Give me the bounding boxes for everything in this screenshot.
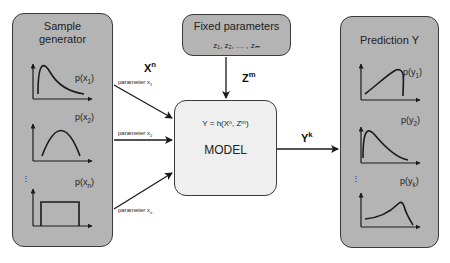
label-py2: p(y2) [401, 115, 420, 127]
plot-pyk [361, 193, 420, 227]
label-zm: Zm [242, 70, 256, 84]
label-px1: p(x1) [75, 73, 94, 85]
label-yk: Yk [301, 130, 313, 144]
label-pyk: p(yk) [400, 176, 419, 188]
label-param-x2: parameter x2 [118, 130, 152, 138]
arrow-param-x1 [114, 85, 172, 118]
plot-pxn [33, 189, 92, 226]
label-param-x1: parameter x1 [118, 79, 152, 87]
ellipsis-left: ⋮ [22, 174, 30, 183]
label-py1: p(y1) [403, 67, 422, 79]
label-param-xn: parameter xn [118, 207, 152, 215]
ellipsis-right: ⋮ [352, 174, 360, 183]
label-xn: Xn [144, 60, 156, 74]
label-pxn: p(xn) [75, 177, 94, 189]
diagram-graphics [0, 0, 450, 263]
arrow-param-xn [114, 173, 172, 209]
plot-py2 [361, 127, 420, 163]
label-px2: p(x2) [75, 112, 94, 124]
plot-px2 [33, 124, 92, 161]
